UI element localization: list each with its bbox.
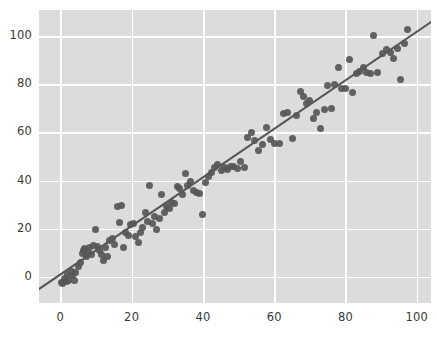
y-tick-label: 20	[2, 221, 32, 235]
scatter-point	[346, 56, 353, 63]
scatter-point	[199, 211, 206, 218]
gridline-vertical	[203, 10, 205, 303]
scatter-point	[153, 226, 160, 233]
scatter-point	[118, 202, 125, 209]
x-tick-label: 100	[397, 310, 437, 324]
scatter-point	[135, 239, 142, 246]
scatter-point	[142, 209, 149, 216]
scatter-point	[158, 191, 165, 198]
scatter-point	[111, 241, 118, 248]
scatter-point	[404, 26, 411, 33]
scatter-plot-figure: 020406080100 020406080100	[0, 0, 437, 341]
gridline-vertical	[274, 10, 276, 303]
scatter-point	[390, 55, 397, 62]
scatter-point	[263, 124, 270, 131]
y-tick-label: 40	[2, 173, 32, 187]
scatter-point	[196, 190, 203, 197]
scatter-point	[401, 40, 408, 47]
x-tick-label: 60	[254, 310, 294, 324]
gridline-horizontal	[39, 132, 431, 134]
scatter-point	[72, 269, 79, 276]
y-tick-label: 60	[2, 124, 32, 138]
scatter-point	[179, 191, 186, 198]
scatter-point	[331, 81, 338, 88]
scatter-point	[234, 165, 241, 172]
scatter-point	[306, 97, 313, 104]
scatter-point	[92, 226, 99, 233]
gridline-vertical	[345, 10, 347, 303]
scatter-point	[317, 125, 324, 132]
y-tick-label: 0	[2, 269, 32, 283]
scatter-point	[321, 106, 328, 113]
scatter-point	[349, 89, 356, 96]
scatter-point	[77, 259, 84, 266]
scatter-point	[102, 244, 109, 251]
gridline-vertical	[132, 10, 134, 303]
scatter-point	[374, 69, 381, 76]
scatter-point	[116, 219, 123, 226]
scatter-point	[310, 115, 317, 122]
scatter-point	[335, 64, 342, 71]
scatter-point	[248, 129, 255, 136]
scatter-point	[202, 179, 209, 186]
scatter-point	[71, 277, 78, 284]
x-tick-label: 80	[325, 310, 365, 324]
y-tick-label: 100	[2, 28, 32, 42]
scatter-point	[394, 45, 401, 52]
plot-area	[39, 10, 431, 303]
scatter-point	[289, 135, 296, 142]
scatter-point	[146, 182, 153, 189]
scatter-point	[313, 109, 320, 116]
y-tick-label: 80	[2, 76, 32, 90]
scatter-point	[130, 220, 137, 227]
gridline-horizontal	[39, 277, 431, 279]
regression-trendline	[39, 10, 431, 303]
scatter-point	[259, 141, 266, 148]
gridline-horizontal	[39, 181, 431, 183]
scatter-point	[255, 147, 262, 154]
x-tick-label: 20	[112, 310, 152, 324]
scatter-point	[367, 70, 374, 77]
scatter-point	[241, 164, 248, 171]
scatter-point	[104, 253, 111, 260]
gridline-horizontal	[39, 84, 431, 86]
scatter-point	[139, 224, 146, 231]
scatter-point	[293, 112, 300, 119]
scatter-point	[251, 137, 258, 144]
scatter-point	[397, 76, 404, 83]
gridline-vertical	[417, 10, 419, 303]
scatter-point	[187, 178, 194, 185]
scatter-point	[324, 82, 331, 89]
x-tick-label: 40	[183, 310, 223, 324]
gridline-vertical	[60, 10, 62, 303]
scatter-point	[182, 170, 189, 177]
scatter-point	[284, 109, 291, 116]
scatter-point	[156, 215, 163, 222]
scatter-point	[171, 200, 178, 207]
scatter-point	[120, 244, 127, 251]
scatter-point	[328, 105, 335, 112]
scatter-point	[276, 140, 283, 147]
scatter-point	[342, 85, 349, 92]
x-tick-label: 0	[40, 310, 80, 324]
scatter-point	[88, 251, 95, 258]
